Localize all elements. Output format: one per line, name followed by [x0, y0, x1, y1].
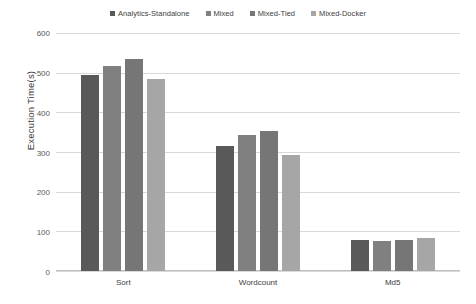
gridline: 0 — [56, 271, 460, 272]
legend-label: Analytics-Standalone — [118, 9, 189, 18]
legend-label: Mixed-Tied — [258, 9, 295, 18]
y-tick-label: 400 — [37, 108, 50, 117]
legend-swatch-icon — [206, 11, 211, 16]
bar-groups: SortWordcountMd5 — [56, 33, 460, 271]
y-tick-label: 500 — [37, 68, 50, 77]
plot-area: 6005004003002001000 SortWordcountMd5 — [56, 33, 460, 271]
bar[interactable] — [282, 155, 300, 271]
bar[interactable] — [238, 135, 256, 271]
legend-label: Mixed-Docker — [319, 9, 366, 18]
legend-item[interactable]: Analytics-Standalone — [110, 9, 189, 18]
x-axis-category-label: Wordcount — [191, 278, 326, 287]
legend-item[interactable]: Mixed-Tied — [250, 9, 295, 18]
bar-group: Md5 — [325, 33, 460, 271]
bar[interactable] — [216, 146, 234, 271]
legend-label: Mixed — [214, 9, 234, 18]
y-tick-label: 100 — [37, 228, 50, 237]
y-tick-label: 600 — [37, 29, 50, 38]
bar[interactable] — [147, 79, 165, 271]
legend-swatch-icon — [311, 11, 316, 16]
bar-chart: Analytics-StandaloneMixedMixed-TiedMixed… — [0, 0, 476, 304]
y-tick-label: 0 — [46, 268, 50, 277]
bar[interactable] — [395, 240, 413, 271]
legend-item[interactable]: Mixed-Docker — [311, 9, 366, 18]
bar[interactable] — [103, 66, 121, 271]
bar[interactable] — [260, 131, 278, 271]
x-axis-category-label: Sort — [56, 278, 191, 287]
legend-swatch-icon — [110, 11, 115, 16]
y-tick-label: 300 — [37, 148, 50, 157]
bar[interactable] — [417, 238, 435, 271]
bar-group: Wordcount — [191, 33, 326, 271]
y-axis-title: Execution Time(s) — [25, 31, 36, 191]
legend-swatch-icon — [250, 11, 255, 16]
bar[interactable] — [351, 240, 369, 271]
y-tick-label: 200 — [37, 188, 50, 197]
bar[interactable] — [373, 241, 391, 271]
x-axis-category-label: Md5 — [325, 278, 460, 287]
legend-item[interactable]: Mixed — [206, 9, 234, 18]
bar[interactable] — [81, 75, 99, 271]
bar[interactable] — [125, 59, 143, 271]
chart-legend: Analytics-StandaloneMixedMixed-TiedMixed… — [0, 9, 476, 18]
bar-group: Sort — [56, 33, 191, 271]
